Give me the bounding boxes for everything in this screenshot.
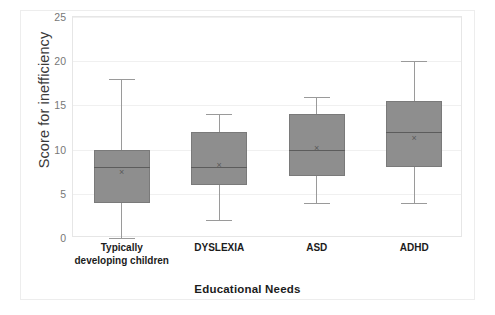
lower-whisker (316, 176, 317, 203)
upper-whisker (219, 114, 220, 132)
plot-area: 0510152025 ×Typically developing childre… (72, 16, 462, 237)
y-tick-label: 15 (54, 99, 66, 111)
figure: Score for inefficiency 0510152025 ×Typic… (0, 0, 495, 315)
lower-whisker-cap (304, 203, 330, 204)
box-plot-typically-developing-children[interactable]: ×Typically developing children (73, 17, 171, 236)
y-tick-label: 20 (54, 55, 66, 67)
mean-marker-icon: × (314, 143, 319, 152)
upper-whisker-cap (304, 97, 330, 98)
lower-whisker (121, 203, 122, 238)
y-tick-label: 0 (60, 232, 66, 244)
x-tick-label: Typically developing children (73, 242, 171, 267)
lower-whisker (219, 185, 220, 220)
y-tick-label: 25 (54, 11, 66, 23)
upper-whisker-cap (109, 79, 135, 80)
box-plot-dyslexia[interactable]: ×DYSLEXIA (171, 17, 269, 236)
x-tick-label: DYSLEXIA (171, 242, 269, 255)
upper-whisker-cap (401, 61, 427, 62)
lower-whisker-cap (109, 238, 135, 239)
box-plot-asd[interactable]: ×ASD (268, 17, 366, 236)
y-axis-title: Score for inefficiency (36, 0, 52, 200)
lower-whisker-cap (401, 203, 427, 204)
upper-whisker-cap (206, 114, 232, 115)
lower-whisker (414, 167, 415, 202)
y-tick-label: 10 (54, 143, 66, 155)
mean-marker-icon: × (412, 134, 417, 143)
x-tick-label: ASD (268, 242, 366, 255)
x-axis-title: Educational Needs (0, 283, 495, 295)
y-tick-label: 5 (60, 188, 66, 200)
lower-whisker-cap (206, 220, 232, 221)
upper-whisker (316, 97, 317, 115)
upper-whisker (414, 61, 415, 101)
mean-marker-icon: × (119, 167, 124, 176)
upper-whisker (121, 79, 122, 150)
x-tick-label: ADHD (366, 242, 464, 255)
mean-marker-icon: × (217, 160, 222, 169)
box-plot-adhd[interactable]: ×ADHD (366, 17, 464, 236)
